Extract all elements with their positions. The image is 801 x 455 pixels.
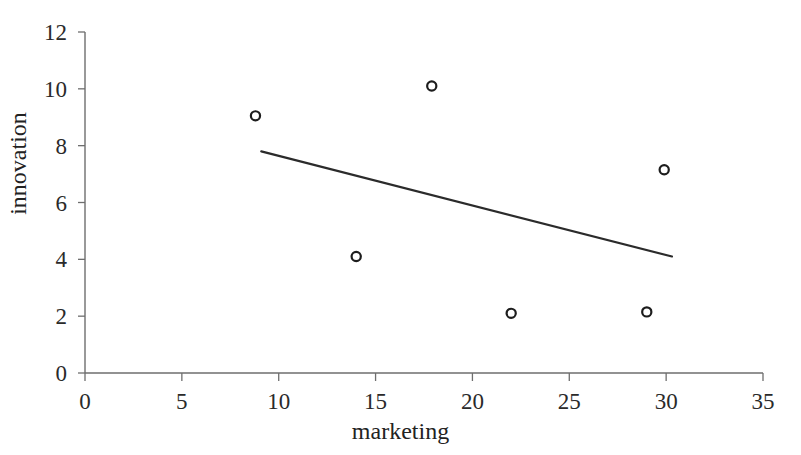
y-tick-label: 2: [0, 305, 67, 328]
y-tick-label: 4: [0, 248, 67, 271]
x-tick-label: 35: [752, 390, 775, 413]
axis-lines: [85, 32, 763, 373]
x-tick-label: 25: [558, 390, 581, 413]
x-tick-label: 15: [364, 390, 387, 413]
y-axis-title: innovation: [5, 84, 32, 244]
plot-canvas: [0, 0, 801, 455]
regression-line: [261, 151, 672, 256]
y-tick-label: 0: [0, 362, 67, 385]
trend-line: [261, 151, 672, 256]
x-tick-label: 20: [461, 390, 484, 413]
x-axis-title: marketing: [0, 418, 801, 445]
scatter-chart-figure: 02468101205101520253035 marketing innova…: [0, 0, 801, 455]
x-tick-label: 0: [79, 390, 91, 413]
data-point-marker: [660, 165, 669, 174]
y-tick-label: 12: [0, 21, 67, 44]
data-point-marker: [352, 252, 361, 261]
x-tick-label: 10: [267, 390, 290, 413]
data-point-marker: [427, 81, 436, 90]
x-tick-label: 30: [655, 390, 678, 413]
data-points: [251, 81, 669, 318]
data-point-marker: [642, 307, 651, 316]
data-point-marker: [507, 309, 516, 318]
x-tick-label: 5: [176, 390, 188, 413]
axis-ticks: [78, 32, 763, 381]
data-point-marker: [251, 111, 260, 120]
